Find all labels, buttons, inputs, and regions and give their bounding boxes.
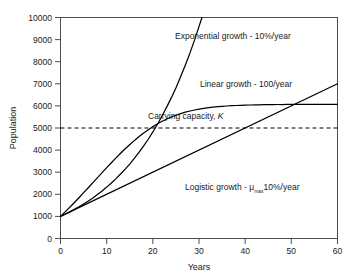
y-tick-6000: 6000 bbox=[33, 101, 52, 111]
y-tick-9000: 9000 bbox=[33, 35, 52, 45]
annotation-carrying-capacity: Carrying capacity, K bbox=[148, 111, 224, 121]
y-tick-4000: 4000 bbox=[33, 145, 52, 155]
annotation-carrying-capacity-text: Carrying capacity, bbox=[148, 111, 218, 121]
y-tick-8000: 8000 bbox=[33, 57, 52, 67]
x-tick-50: 50 bbox=[287, 246, 297, 256]
chart-background bbox=[0, 0, 355, 279]
x-tick-60: 60 bbox=[333, 246, 343, 256]
annotation-logistic: Logistic growth - μmax10%/year bbox=[185, 182, 300, 194]
annotation-logistic-text: Logistic growth - μ bbox=[185, 182, 254, 192]
x-axis-title: Years bbox=[188, 262, 211, 272]
x-tick-0: 0 bbox=[58, 246, 63, 256]
chart-canvas: 10000 9000 8000 7000 6000 5000 4000 3000… bbox=[0, 0, 355, 279]
x-tick-40: 40 bbox=[240, 246, 250, 256]
y-tick-1000: 1000 bbox=[33, 211, 52, 221]
annotation-logistic-tail: 10%/year bbox=[264, 182, 300, 192]
y-tick-5000: 5000 bbox=[33, 123, 52, 133]
y-tick-3000: 3000 bbox=[33, 167, 52, 177]
y-axis-title: Population bbox=[8, 107, 18, 150]
annotation-exponential: Exponential growth - 10%/year bbox=[175, 31, 291, 41]
annotation-carrying-capacity-symbol: K bbox=[218, 111, 224, 121]
x-tick-10: 10 bbox=[102, 246, 112, 256]
y-tick-7000: 7000 bbox=[33, 79, 52, 89]
y-tick-2000: 2000 bbox=[33, 189, 52, 199]
x-tick-30: 30 bbox=[194, 246, 204, 256]
annotation-logistic-subscript: max bbox=[254, 188, 264, 194]
population-growth-chart: 10000 9000 8000 7000 6000 5000 4000 3000… bbox=[0, 0, 355, 279]
y-tick-0: 0 bbox=[47, 234, 52, 244]
annotation-linear: Linear growth - 100/year bbox=[200, 79, 292, 89]
x-tick-20: 20 bbox=[148, 246, 158, 256]
y-tick-10000: 10000 bbox=[28, 13, 52, 23]
